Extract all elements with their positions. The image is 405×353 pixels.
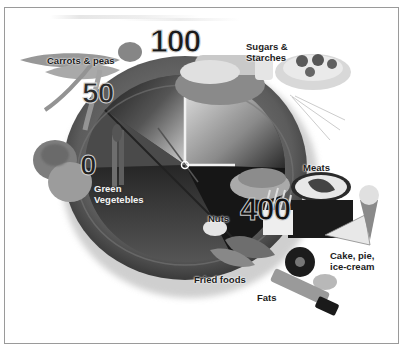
- label-sugars-line2: Starches: [246, 52, 288, 63]
- label-carrots-peas: Carrots & peas: [47, 55, 115, 66]
- label-green-line1: Green: [94, 183, 144, 194]
- label-sugars-line1: Sugars &: [246, 41, 288, 52]
- label-cake-pie-icecream: Cake, pie, ice-cream: [330, 250, 374, 272]
- label-green-vegetables: Green Vegetebles: [94, 183, 144, 205]
- label-cake-line2: ice-cream: [330, 261, 374, 272]
- label-sugars-starches: Sugars & Starches: [246, 41, 288, 63]
- label-meats: Meats: [303, 162, 330, 173]
- label-cake-line1: Cake, pie,: [330, 250, 374, 261]
- dial-value-100: 100: [150, 25, 200, 57]
- label-green-line2: Vegetebles: [94, 194, 144, 205]
- dial-value-50: 50: [82, 78, 113, 108]
- dial-value-400: 400: [240, 193, 290, 225]
- plate-clock-illustration: [0, 0, 405, 353]
- label-fats: Fats: [257, 292, 277, 303]
- label-fried-foods: Fried foods: [194, 274, 246, 285]
- label-nuts: Nuts: [208, 213, 229, 224]
- dial-value-0: 0: [80, 150, 96, 180]
